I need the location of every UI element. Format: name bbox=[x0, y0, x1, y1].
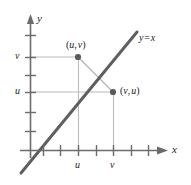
guide-lines bbox=[30, 57, 114, 150]
y-tick-label-u: u bbox=[15, 86, 20, 96]
identity-line-label-eq: = bbox=[144, 32, 150, 43]
x-tick-label-u: u bbox=[75, 160, 80, 170]
identity-line-label-y: y bbox=[139, 32, 143, 43]
reflection-connector bbox=[78, 57, 113, 92]
point-vu-marker bbox=[110, 89, 116, 95]
coordinate-plane-figure: y x v u u v (u, v) (v, u) y = x bbox=[0, 0, 191, 185]
point-uv-close-paren: ) bbox=[82, 39, 85, 50]
point-vu-label: (v, u) bbox=[120, 86, 139, 96]
point-vu-close-paren: ) bbox=[136, 85, 139, 96]
point-uv-label: (u, v) bbox=[66, 40, 85, 50]
identity-line-label-x: x bbox=[151, 32, 155, 43]
point-uv-marker bbox=[75, 54, 81, 60]
y-axis-label: y bbox=[37, 13, 42, 24]
y-tick-label-v: v bbox=[15, 51, 19, 61]
identity-line-label: y = x bbox=[139, 33, 155, 43]
x-tick-label-v: v bbox=[110, 160, 114, 170]
point-vu-comma: , bbox=[128, 85, 131, 96]
figure-canvas bbox=[0, 0, 191, 185]
y-axis bbox=[25, 14, 36, 158]
y-axis-arrow bbox=[27, 14, 34, 24]
x-axis-arrow bbox=[157, 147, 168, 155]
point-uv-comma: , bbox=[74, 39, 77, 50]
x-axis-label: x bbox=[172, 144, 177, 155]
